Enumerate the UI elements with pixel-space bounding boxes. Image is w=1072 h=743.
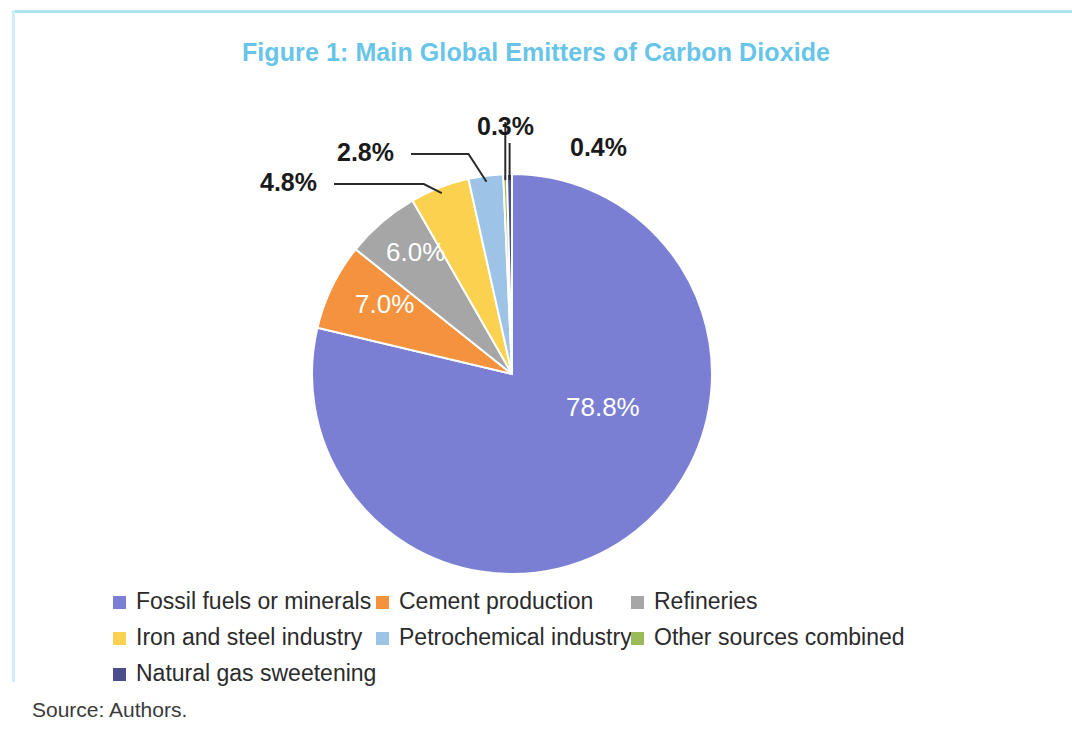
legend-swatch-icon [376, 632, 389, 645]
legend-item[interactable]: Iron and steel industry [113, 622, 376, 652]
legend-swatch-icon [631, 596, 644, 609]
legend-item[interactable]: Fossil fuels or minerals [113, 586, 376, 616]
legend-item-label: Iron and steel industry [136, 622, 362, 652]
legend-item-label: Other sources combined [654, 622, 905, 652]
legend-swatch-icon [113, 596, 126, 609]
legend-item-label: Refineries [654, 586, 758, 616]
pie-slice-label: 78.8% [566, 392, 640, 423]
chart-legend: Fossil fuels or mineralsCement productio… [113, 586, 953, 694]
pie-chart-svg [0, 0, 1072, 600]
pie-chart: 78.8%7.0%6.0%4.8%2.8%0.3%0.4% [0, 0, 1072, 600]
legend-item-label: Cement production [399, 586, 593, 616]
legend-swatch-icon [113, 632, 126, 645]
pie-slice-group [312, 174, 712, 574]
pie-slice-label: 4.8% [260, 168, 317, 197]
legend-row: Iron and steel industryPetrochemical ind… [113, 622, 953, 658]
legend-swatch-icon [376, 596, 389, 609]
pie-slice-label: 2.8% [337, 138, 394, 167]
legend-swatch-icon [113, 668, 126, 681]
legend-item-label: Natural gas sweetening [136, 658, 376, 688]
pie-slice-label: 7.0% [355, 289, 414, 320]
pie-slice-label: 6.0% [386, 237, 445, 268]
legend-swatch-icon [631, 632, 644, 645]
legend-item[interactable]: Cement production [376, 586, 631, 616]
legend-row: Natural gas sweetening [113, 658, 953, 694]
figure-container: Figure 1: Main Global Emitters of Carbon… [0, 0, 1072, 743]
pie-leader-line [334, 184, 442, 193]
legend-item[interactable]: Refineries [631, 586, 911, 616]
legend-item[interactable]: Other sources combined [631, 622, 911, 652]
legend-item[interactable]: Natural gas sweetening [113, 658, 376, 688]
legend-row: Fossil fuels or mineralsCement productio… [113, 586, 953, 622]
legend-item-label: Petrochemical industry [399, 622, 632, 652]
pie-slice-label: 0.3% [477, 112, 534, 141]
pie-slice-label: 0.4% [570, 133, 627, 162]
legend-item[interactable]: Petrochemical industry [376, 622, 631, 652]
source-note: Source: Authors. [32, 698, 187, 722]
legend-item-label: Fossil fuels or minerals [136, 586, 371, 616]
